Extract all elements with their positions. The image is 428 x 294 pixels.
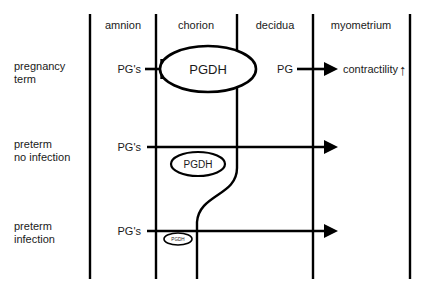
row2-flow-arrowhead [324, 140, 338, 154]
column-header-chorion: chorion [178, 19, 214, 31]
column-headers: amnion chorion decidua myometrium [105, 19, 391, 31]
column-header-myometrium: myometrium [331, 19, 392, 31]
row1-target-label: contractility [343, 63, 399, 75]
column-header-amnion: amnion [105, 19, 141, 31]
row-labels: pregnancy term preterm no infection pret… [14, 60, 70, 245]
row-preterm-infection: PG's PGDH [118, 224, 339, 245]
row2-source-label: PG's [118, 141, 142, 153]
row2-pgdh-label: PGDH [184, 159, 213, 170]
row3-source-label: PG's [118, 225, 142, 237]
row-label-preterm-infection-line2: infection [14, 233, 55, 245]
row1-source-label: PG's [118, 63, 142, 75]
row-label-preterm-infection-line1: preterm [14, 220, 52, 232]
row3-flow-arrowhead [324, 224, 338, 238]
row1-target-source-label: PG [277, 63, 293, 75]
row-label-pregnancy-term-line1: pregnancy [14, 60, 66, 72]
row1-activation-arrowhead [324, 62, 338, 76]
column-header-decidua: decidua [256, 19, 295, 31]
row1-pgdh-label: PGDH [189, 62, 227, 77]
row-preterm-no-infection: PG's PGDH [118, 140, 339, 176]
row-label-pregnancy-term-line2: term [14, 73, 36, 85]
row-label-preterm-no-infection-line1: preterm [14, 138, 52, 150]
row-pregnancy-term: PG's PGDH PG contractility ↑ [118, 46, 407, 92]
row-label-preterm-no-infection-line2: no infection [14, 151, 70, 163]
diagram-svg: amnion chorion decidua myometrium pregna… [0, 0, 428, 294]
diagram-canvas: amnion chorion decidua myometrium pregna… [0, 0, 428, 294]
row3-pgdh-label: PGDH [171, 237, 184, 242]
row1-contractility-up-arrow-icon: ↑ [399, 61, 407, 78]
